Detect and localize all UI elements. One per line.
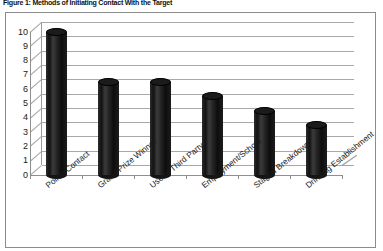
depth-edge [30,51,42,62]
x-axis-tick [186,175,187,179]
x-axis-tick [342,175,343,179]
y-axis-tick-label: 6 [12,85,28,94]
x-axis-tick [134,175,135,179]
y-axis-tick-label: 7 [12,70,28,79]
gridline [42,108,354,109]
gridline [42,79,354,80]
y-axis-line [30,32,31,175]
depth-edge [30,137,42,148]
x-axis-tick [30,175,31,179]
y-axis-tick-label: 3 [12,128,28,137]
chart-plot-area: 012345678910 Police ContactGrand Prize W… [6,13,375,247]
bar [46,28,67,175]
depth-edge [30,151,42,162]
y-axis-tick-label: 9 [12,42,28,51]
gridline [42,36,354,37]
gridline [42,22,354,23]
y-axis-tick-label: 4 [12,113,28,122]
bar-body [202,96,223,175]
y-axis-tick-label: 10 [12,28,28,37]
y-axis-tick-label: 2 [12,142,28,151]
x-axis-tick [82,175,83,179]
bar-top-ellipse [46,28,67,36]
y-axis-tick-label: 5 [12,99,28,108]
bar-top-ellipse [150,78,171,86]
gridline [42,65,354,66]
gridline [42,51,354,52]
depth-edge [30,36,42,47]
bar-body [98,82,119,175]
y-axis-tick-label: 8 [12,56,28,65]
bar-body [46,32,67,175]
bar-top-ellipse [98,78,119,86]
y-axis-tick-label: 0 [12,171,28,180]
y-axis-tick-label: 1 [12,156,28,165]
depth-edge [30,65,42,76]
x-axis-tick [290,175,291,179]
bar-top-ellipse [254,107,275,115]
bar [98,78,119,175]
figure-caption: Figure 1: Methods of Initiating Contact … [3,0,172,7]
depth-edge [30,108,42,119]
depth-edge [30,22,42,33]
depth-edge [30,122,42,133]
bar [202,92,223,175]
depth-edge [30,79,42,90]
x-axis-tick [238,175,239,179]
y-axis-labels: 012345678910 [8,13,28,247]
chart-frame: 012345678910 Police ContactGrand Prize W… [5,12,376,248]
gridline [42,94,354,95]
bar [150,78,171,175]
depth-edge [30,94,42,105]
bar-top-ellipse [306,121,327,129]
bar-body [150,82,171,175]
